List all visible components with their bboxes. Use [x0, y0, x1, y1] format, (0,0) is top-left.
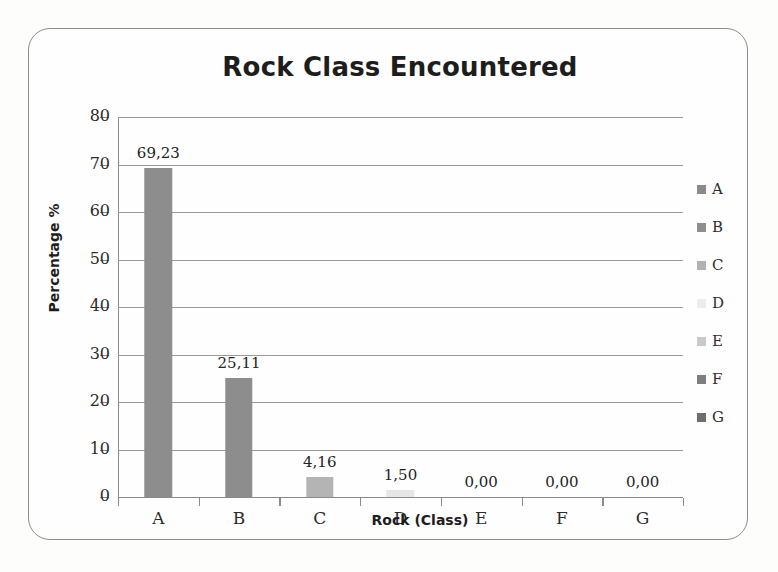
legend-swatch-icon	[697, 375, 706, 384]
legend-label: C	[712, 256, 723, 274]
y-axis-tick-label: 20	[70, 391, 110, 410]
chart-title: Rock Class Encountered	[120, 52, 680, 82]
legend-swatch-icon	[697, 261, 706, 270]
y-axis-tick-label: 10	[70, 439, 110, 458]
y-axis-tick-label: 70	[70, 154, 110, 173]
legend-label: B	[712, 218, 723, 236]
legend-label: E	[712, 332, 723, 350]
bar-slot: 1,50	[360, 117, 441, 497]
legend-item-f[interactable]: F	[697, 360, 757, 398]
legend-swatch-icon	[697, 223, 706, 232]
x-axis-category-label: B	[204, 508, 274, 528]
bar[interactable]	[225, 378, 252, 497]
legend-label: D	[712, 294, 724, 312]
legend-label: F	[712, 370, 722, 388]
x-axis-tick-mark	[118, 498, 119, 506]
y-axis-tick-label: 50	[70, 249, 110, 268]
bar[interactable]	[306, 477, 333, 497]
bar-value-label: 69,23	[137, 144, 180, 162]
bar-slot: 25,11	[199, 117, 280, 497]
bar[interactable]	[145, 168, 172, 497]
bar-value-label: 0,00	[626, 473, 659, 491]
legend-item-g[interactable]: G	[697, 398, 757, 436]
x-axis-tick-mark	[602, 498, 603, 506]
bar-slot: 4,16	[279, 117, 360, 497]
x-axis-category-label: A	[123, 508, 193, 528]
bar-slot: 69,23	[118, 117, 199, 497]
x-axis-tick-mark	[522, 498, 523, 506]
y-axis-tick-label: 80	[70, 106, 110, 125]
x-axis-tick-mark	[199, 498, 200, 506]
x-axis-tick-mark	[441, 498, 442, 506]
x-axis-category-label: F	[527, 508, 597, 528]
bar-slot: 0,00	[602, 117, 683, 497]
bar-value-label: 0,00	[545, 473, 578, 491]
x-axis-tick-mark	[683, 498, 684, 506]
chart-screenshot: Rock Class Encountered Percentage % 8070…	[0, 0, 778, 572]
legend-item-e[interactable]: E	[697, 322, 757, 360]
chart-legend: ABCDEFG	[697, 170, 757, 436]
legend-swatch-icon	[697, 185, 706, 194]
legend-item-b[interactable]: B	[697, 208, 757, 246]
x-axis-category-label: G	[608, 508, 678, 528]
bar-slot: 0,00	[441, 117, 522, 497]
bar-value-label: 1,50	[384, 466, 417, 484]
y-axis-tick-label: 30	[70, 344, 110, 363]
bar-value-label: 25,11	[218, 354, 261, 372]
legend-label: G	[712, 408, 724, 426]
bar-value-label: 0,00	[464, 473, 497, 491]
bar-slot: 0,00	[522, 117, 603, 497]
x-axis-tick-mark	[279, 498, 280, 506]
y-axis-tick-group: 80706050403020100	[58, 117, 110, 498]
legend-swatch-icon	[697, 413, 706, 422]
gridline	[118, 497, 683, 498]
bar-value-label: 4,16	[303, 453, 336, 471]
legend-item-a[interactable]: A	[697, 170, 757, 208]
y-axis-tick-label: 0	[70, 486, 110, 505]
x-axis-label: Rock (Class)	[345, 512, 495, 528]
legend-label: A	[712, 180, 723, 198]
legend-item-d[interactable]: D	[697, 284, 757, 322]
y-axis-tick-label: 60	[70, 201, 110, 220]
legend-swatch-icon	[697, 337, 706, 346]
bar[interactable]	[387, 490, 414, 497]
plot-area: 69,2325,114,161,500,000,000,00	[118, 117, 683, 497]
y-axis-tick-label: 40	[70, 296, 110, 315]
x-axis-tick-mark	[360, 498, 361, 506]
legend-swatch-icon	[697, 299, 706, 308]
legend-item-c[interactable]: C	[697, 246, 757, 284]
